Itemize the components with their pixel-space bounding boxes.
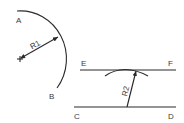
label-e: E	[81, 59, 86, 68]
label-c: C	[74, 112, 80, 121]
label-f: F	[168, 59, 173, 68]
label-d: D	[168, 112, 174, 121]
label-r1: R1	[29, 38, 43, 51]
label-b: B	[49, 92, 54, 101]
right-figure: E F C D R2	[74, 59, 176, 121]
geometry-diagram: A B R1 E F C D R2	[0, 0, 184, 123]
arc-ab	[17, 11, 66, 88]
label-a: A	[16, 16, 22, 25]
left-figure: A B R1	[16, 11, 66, 101]
